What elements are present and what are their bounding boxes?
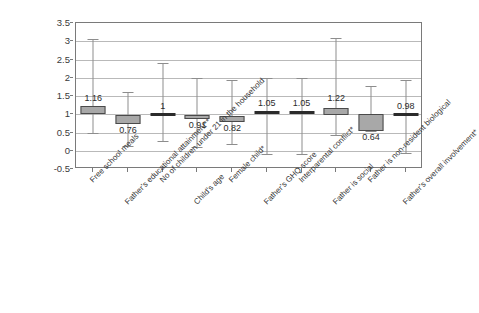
box-rect <box>358 114 383 130</box>
x-axis-tick-mark <box>301 168 302 172</box>
y-axis-tick-mark <box>70 77 73 78</box>
box-rect <box>324 108 349 116</box>
whisker-cap-lower <box>192 147 203 148</box>
x-axis-tick-mark <box>127 168 128 172</box>
box-rect <box>116 115 141 124</box>
whisker-cap-upper <box>261 78 272 79</box>
box-whisker-item: 0.76 <box>111 23 146 167</box>
whisker-line <box>93 39 94 133</box>
median-line <box>289 111 314 114</box>
whisker-cap-upper <box>400 80 411 81</box>
median-line <box>393 113 418 116</box>
box-whisker-item: 0.98 <box>388 23 423 167</box>
data-value-label: 1.16 <box>85 94 103 103</box>
whisker-cap-lower <box>331 135 342 136</box>
data-value-label: 0.91 <box>189 121 207 130</box>
whisker-line <box>197 78 198 147</box>
data-value-label: 0.64 <box>362 133 380 142</box>
x-axis-ticks <box>75 168 422 172</box>
y-axis-tick-mark <box>70 113 73 114</box>
x-axis-tick-mark <box>370 168 371 172</box>
data-value-label: 0.98 <box>397 102 415 111</box>
x-axis-tick-mark <box>92 168 93 172</box>
whisker-cap-upper <box>365 86 376 87</box>
box-whisker-item: 0.82 <box>215 23 250 167</box>
data-value-label: 1 <box>160 102 165 111</box>
box-whisker-item: 1.05 <box>250 23 285 167</box>
whisker-cap-lower <box>123 146 134 147</box>
box-whisker-item: 1.05 <box>284 23 319 167</box>
data-value-label: 0.82 <box>223 124 241 133</box>
x-axis-tick-mark <box>405 168 406 172</box>
box-whisker-item: 1.16 <box>76 23 111 167</box>
y-axis-tick-mark <box>70 40 73 41</box>
whisker-line <box>266 78 267 154</box>
median-line <box>254 111 279 114</box>
x-axis-tick-mark <box>162 168 163 172</box>
whisker-cap-lower <box>88 133 99 134</box>
y-axis-tick-mark <box>70 59 73 60</box>
plot-area: 1.160.7610.910.821.051.051.220.640.98 <box>75 22 422 168</box>
box-rect <box>185 115 210 119</box>
box-whisker-item: 0.91 <box>180 23 215 167</box>
y-axis-tick-mark <box>70 150 73 151</box>
whisker-cap-lower <box>261 154 272 155</box>
box-whisker-item: 1.22 <box>319 23 354 167</box>
y-axis-tick-mark <box>70 95 73 96</box>
whisker-cap-lower <box>157 141 168 142</box>
y-axis-tick-label: 3.5 <box>34 18 70 27</box>
whisker-cap-upper <box>157 63 168 64</box>
whisker-cap-upper <box>192 78 203 79</box>
x-axis-tick-mark <box>231 168 232 172</box>
data-value-label: 1.22 <box>327 94 345 103</box>
y-axis-tick-label: 2.5 <box>34 54 70 63</box>
y-axis-tick-label: 0 <box>34 145 70 154</box>
whisker-line <box>232 80 233 145</box>
y-axis-tick-label: 3 <box>34 36 70 45</box>
whisker-cap-upper <box>88 39 99 40</box>
box-whisker-item: 0.64 <box>354 23 389 167</box>
whisker-cap-lower <box>227 144 238 145</box>
box-whisker-item: 1 <box>145 23 180 167</box>
whisker-cap-lower <box>296 154 307 155</box>
y-axis: 3.532.521.510.50-0.5 <box>28 22 70 168</box>
whisker-cap-upper <box>331 38 342 39</box>
x-axis-tick-mark <box>266 168 267 172</box>
x-axis-tick-mark <box>335 168 336 172</box>
whisker-line <box>301 78 302 154</box>
y-axis-tick-label: 1.5 <box>34 91 70 100</box>
whisker-cap-lower <box>400 153 411 154</box>
y-axis-tick-mark <box>70 22 73 23</box>
box-rect <box>81 106 106 113</box>
data-value-label: 1.05 <box>258 99 276 108</box>
whisker-line <box>336 38 337 136</box>
data-value-label: 0.76 <box>119 126 137 135</box>
data-value-label: 1.05 <box>293 99 311 108</box>
y-axis-tick-label: 0.5 <box>34 127 70 136</box>
y-axis-tick-label: 2 <box>34 72 70 81</box>
x-axis-category-label: Child's age <box>192 172 226 206</box>
y-axis-tick-label: -0.5 <box>34 164 70 173</box>
box-rect <box>220 116 245 123</box>
y-axis-tick-mark <box>70 168 73 169</box>
y-axis-tick-mark <box>70 132 73 133</box>
y-axis-tick-label: 1 <box>34 109 70 118</box>
x-axis-tick-mark <box>196 168 197 172</box>
whisker-cap-upper <box>227 80 238 81</box>
median-line <box>150 113 175 116</box>
whisker-cap-upper <box>123 92 134 93</box>
whisker-cap-upper <box>296 78 307 79</box>
